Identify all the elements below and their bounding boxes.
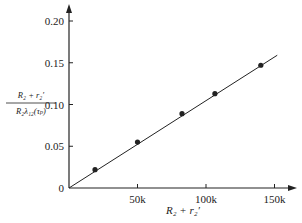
data-point-marker <box>212 91 217 96</box>
x-axis-arrow-icon <box>288 185 297 191</box>
data-point-marker <box>258 63 263 68</box>
data-points <box>92 63 263 173</box>
y-tick-label: 0 <box>59 182 65 194</box>
y-axis-label-numerator: R₂ + r₂′ <box>17 90 44 100</box>
chart: 50k100k150k00.050.100.150.20 R₂ + r₂′R₂ … <box>0 0 302 223</box>
data-point-marker <box>135 139 140 144</box>
x-tick-label: 150k <box>264 193 287 205</box>
ticks: 50k100k150k00.050.100.150.20 <box>45 15 286 205</box>
axis-labels: R₂ + r₂′R₂ + r₂′R₂λ₁₂(τₚ) <box>6 90 201 216</box>
y-axis-label-denominator: R₂λ₁₂(τₚ) <box>15 106 46 116</box>
y-tick-label: 0.20 <box>45 15 65 27</box>
data-point-marker <box>92 167 97 172</box>
data-point-marker <box>179 111 184 116</box>
fit-line <box>69 55 277 188</box>
axes <box>66 4 297 191</box>
x-axis-label: R₂ + r₂′ <box>165 204 201 216</box>
fit-line-path <box>69 55 277 188</box>
y-tick-label: 0.10 <box>45 99 65 111</box>
y-tick-label: 0.15 <box>45 57 65 69</box>
y-axis-arrow-icon <box>66 4 72 13</box>
x-tick-label: 50k <box>129 193 146 205</box>
y-tick-label: 0.05 <box>45 140 65 152</box>
